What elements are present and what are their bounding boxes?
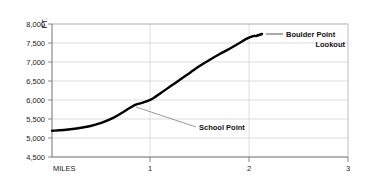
y-tick-label-5500: 5,500 <box>26 115 45 124</box>
y-axis-unit-label: FT. <box>40 18 49 28</box>
y-tick-label-5000: 5,000 <box>26 134 45 143</box>
x-tick-label-2: 2 <box>247 164 251 173</box>
y-tick-label-6500: 6,500 <box>26 77 45 86</box>
y-tick-label-7000: 7,000 <box>26 58 45 67</box>
x-axis-title: MILES <box>53 164 76 173</box>
boulder-point-label-line1: Boulder Point <box>286 30 336 39</box>
y-tick-label-6000: 6,000 <box>26 96 45 105</box>
elevation-profile-chart: 8,000 7,500 7,000 6,500 6,000 5,500 5,00… <box>0 0 370 179</box>
x-tick-label-3: 3 <box>346 164 350 173</box>
school-point-label: School Point <box>199 123 245 132</box>
x-tick-label-1: 1 <box>148 164 152 173</box>
y-axis-title: FT. <box>40 18 49 28</box>
chart-canvas: 8,000 7,500 7,000 6,500 6,000 5,500 5,00… <box>0 0 370 179</box>
x-axis-unit-label: MILES <box>53 164 76 173</box>
chart-background <box>0 0 370 179</box>
y-tick-label-7500: 7,500 <box>26 39 45 48</box>
y-tick-label-4500: 4,500 <box>26 153 45 162</box>
boulder-point-label-line2: Lookout <box>315 40 345 49</box>
